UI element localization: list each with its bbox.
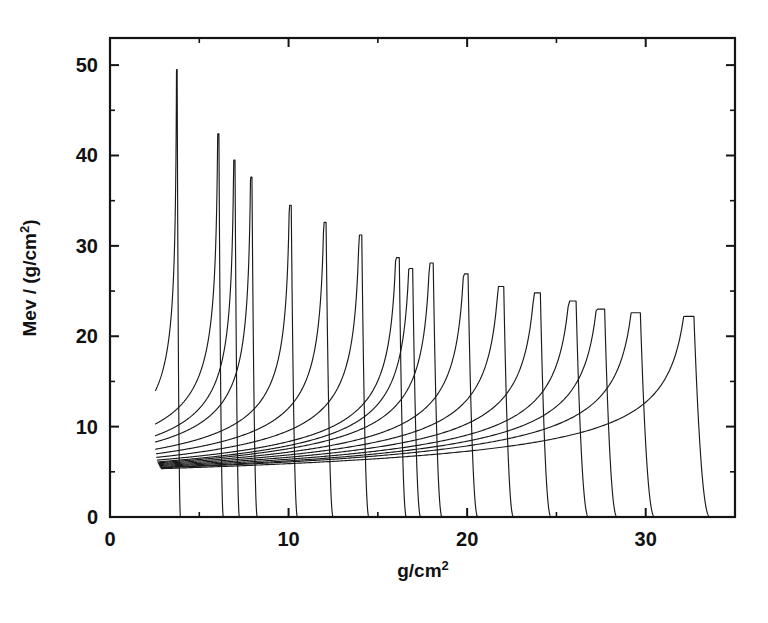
y-tick-label: 30: [76, 235, 98, 257]
bragg-peak-chart: 010203001020304050 g/cm2 Mev / (g/cm2): [0, 0, 768, 623]
x-tick-label: 10: [277, 528, 299, 550]
y-tick-label: 50: [76, 54, 98, 76]
bragg-curve: [156, 70, 181, 517]
bragg-curve: [159, 274, 478, 517]
bragg-curve: [157, 235, 369, 517]
bragg-curve: [160, 293, 551, 517]
bragg-curve: [161, 313, 655, 517]
bragg-curve: [156, 205, 298, 517]
y-tick-label: 10: [76, 416, 98, 438]
axes-box: [110, 38, 735, 517]
x-axis-title: g/cm2: [397, 558, 449, 581]
x-tick-label: 30: [635, 528, 657, 550]
y-tick-label: 20: [76, 325, 98, 347]
y-tick-label: 0: [87, 506, 98, 528]
tick-group: [110, 38, 735, 517]
bragg-curve: [160, 301, 589, 517]
x-tick-label: 20: [456, 528, 478, 550]
bragg-curve: [159, 287, 513, 517]
svg-text:Mev / (g/cm2): Mev / (g/cm2): [17, 219, 40, 336]
bragg-curve: [157, 258, 406, 517]
plot-frame: [110, 38, 735, 517]
bragg-curve: [156, 222, 333, 517]
curve-group: [156, 70, 710, 517]
y-axis-title: Mev / (g/cm2): [17, 219, 40, 336]
figure-page: 010203001020304050 g/cm2 Mev / (g/cm2): [0, 0, 768, 623]
bragg-curve: [158, 268, 421, 517]
x-tick-label: 0: [104, 528, 115, 550]
y-tick-label: 40: [76, 144, 98, 166]
